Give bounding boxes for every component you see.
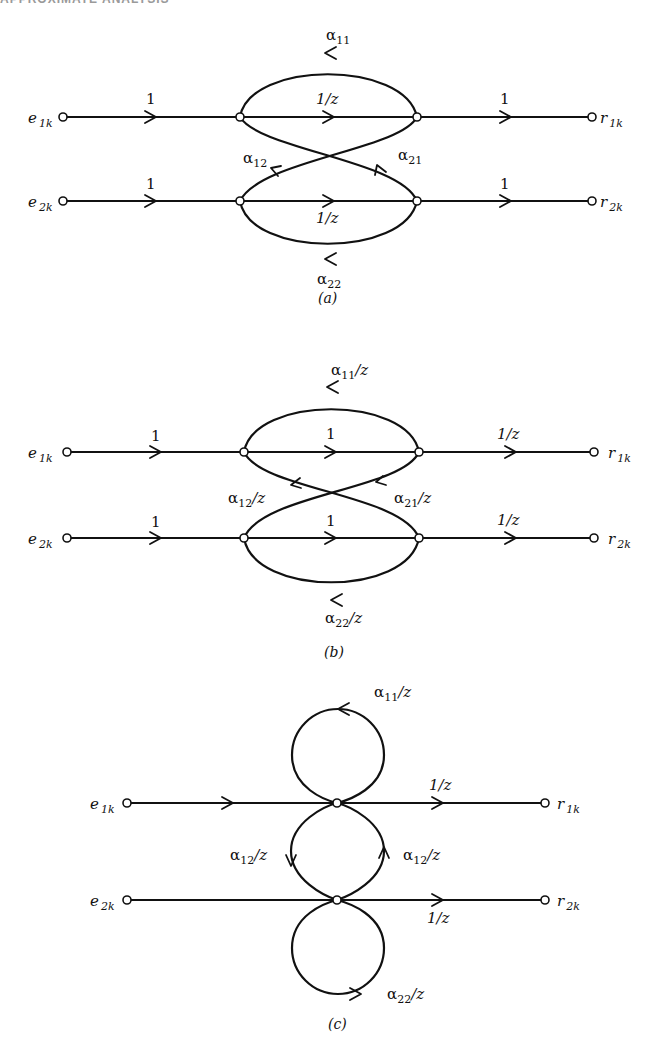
node: [240, 448, 248, 456]
figure-b: e1k e2k r1k r2k 1 1 1 1 1/z 1/z α11/z α1…: [28, 361, 631, 660]
coef-label-a11: α11/z: [331, 361, 368, 382]
output-label-r1: r1k: [608, 444, 631, 465]
arrow-icon: [325, 253, 336, 265]
input-label-e2: e2k: [90, 892, 115, 913]
figure-caption-c: (c): [328, 1016, 347, 1032]
node-r2: [541, 896, 549, 904]
coef-label-a11: α11: [326, 26, 350, 47]
node: [236, 113, 244, 121]
gain-label: 1: [146, 90, 156, 108]
node: [240, 534, 248, 542]
figure-caption-b: (b): [324, 644, 344, 660]
coef-label-a11: α11/z: [374, 683, 411, 704]
output-label-r1: r1k: [557, 795, 580, 816]
gain-label: 1/z: [316, 90, 339, 108]
output-label-r2: r2k: [557, 892, 580, 913]
figure-c: e1k e2k r1k r2k 1/z 1/z α11/z α12/z α12/…: [90, 683, 580, 1032]
coef-label-a22: α22: [317, 270, 341, 291]
gain-label: 1/z: [497, 511, 520, 529]
output-label-r2: r2k: [600, 193, 623, 214]
node-r1: [590, 448, 598, 456]
node-e2: [123, 896, 131, 904]
gain-label: 1: [326, 425, 336, 443]
self-loop-a22: [292, 900, 384, 994]
node-r1: [541, 799, 549, 807]
input-label-e1: e1k: [90, 795, 115, 816]
coef-label-a21: α21/z: [394, 489, 431, 510]
self-loop-a11: [292, 709, 384, 803]
branch-a22: [244, 538, 419, 582]
node-e1: [63, 448, 71, 456]
gain-label: 1: [500, 90, 510, 108]
gain-label: 1/z: [429, 776, 452, 794]
gain-label: 1/z: [427, 909, 450, 927]
node: [236, 197, 244, 205]
input-label-e2: e2k: [28, 530, 53, 551]
gain-label: 1: [151, 513, 161, 531]
node-r1: [588, 113, 596, 121]
figure-a: e1k e2k r1k r2k 1 1 1/z 1/z 1 1 α11 α12 …: [28, 26, 623, 306]
gain-label: 1: [151, 427, 161, 445]
node-e2: [63, 534, 71, 542]
node-e1: [59, 113, 67, 121]
coef-label-a12-right: α12/z: [403, 846, 440, 867]
output-label-r1: r1k: [600, 109, 623, 130]
node-r2: [588, 197, 596, 205]
gain-label: 1: [146, 175, 156, 193]
arrow-icon: [327, 381, 338, 393]
gain-label: 1: [500, 175, 510, 193]
coef-label-a21: α21: [398, 146, 422, 167]
node: [333, 896, 341, 904]
gain-label: 1/z: [316, 209, 339, 227]
node: [413, 197, 421, 205]
coef-label-a12-left: α12/z: [230, 846, 267, 867]
node-e2: [59, 197, 67, 205]
node-r2: [590, 534, 598, 542]
node: [413, 113, 421, 121]
node: [415, 534, 423, 542]
input-label-e1: e1k: [28, 109, 53, 130]
arrow-icon: [271, 166, 281, 176]
node-e1: [123, 799, 131, 807]
branch-a12-right: [337, 803, 384, 900]
coef-label-a22: α22/z: [387, 985, 424, 1006]
gain-label: 1: [326, 512, 336, 530]
arrow-icon: [325, 47, 336, 59]
input-label-e1: e1k: [28, 444, 53, 465]
node: [333, 799, 341, 807]
branch-a12-left: [291, 803, 337, 900]
coef-label-a12: α12/z: [228, 489, 265, 510]
signal-flow-figure: e1k e2k r1k r2k 1 1 1/z 1/z 1 1 α11 α12 …: [0, 0, 665, 1053]
coef-label-a12: α12: [243, 149, 267, 170]
arrow-icon: [331, 594, 342, 606]
figure-caption-a: (a): [318, 290, 337, 306]
coef-label-a22: α22/z: [325, 609, 362, 630]
gain-label: 1/z: [497, 425, 520, 443]
node: [415, 448, 423, 456]
output-label-r2: r2k: [608, 530, 631, 551]
input-label-e2: e2k: [28, 193, 53, 214]
